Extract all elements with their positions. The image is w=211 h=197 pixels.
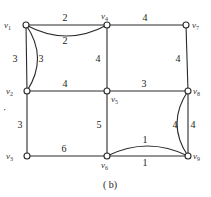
edge-weight-label: 2 — [63, 12, 68, 23]
vertex-label-v2: v2 — [6, 86, 13, 97]
edge-weight-label: 1 — [143, 157, 148, 168]
edge-weight-label: 4 — [143, 12, 148, 23]
edge-v1-v2 — [26, 25, 38, 91]
edge-weight-label: 4 — [173, 119, 178, 130]
vertex-v6 — [104, 153, 110, 159]
weighted-graph-diagram: 2243344433544611 v1v2v3v4v5v6v7v8v9 ( b)… — [0, 0, 211, 197]
vertex-label-v5: v5 — [111, 94, 118, 105]
edge-weight-label: 2 — [63, 35, 68, 46]
edge-weight-label: 3 — [13, 53, 18, 64]
vertex-v7 — [183, 22, 189, 28]
vertex-label-v4: v4 — [101, 11, 108, 22]
vertex-label-v3: v3 — [6, 151, 13, 162]
vertex-v1 — [23, 22, 29, 28]
edge-weight-label: 4 — [63, 78, 68, 89]
edge-weight-label: 4 — [191, 119, 196, 130]
edge-v7-v8 — [186, 25, 188, 91]
vertex-label-v1: v1 — [4, 20, 11, 31]
edge-weight-label: 3 — [18, 119, 23, 130]
edge-weight-label: 5 — [97, 119, 102, 130]
stray-mark: · — [3, 104, 6, 115]
vertex-v3 — [24, 153, 30, 159]
edge-weight-label: 3 — [142, 78, 147, 89]
vertex-v4 — [104, 22, 110, 28]
edge-weight-label: 1 — [143, 134, 148, 145]
edge-weight-label: 6 — [62, 143, 67, 154]
vertex-v5 — [104, 88, 110, 94]
vertex-label-v7: v7 — [192, 20, 199, 31]
edge-weight-label: 4 — [96, 53, 101, 64]
figure-caption: ( b) — [103, 179, 117, 191]
edge-weight-label: 4 — [176, 53, 181, 64]
vertex-label-v8: v8 — [193, 86, 200, 97]
edge-v1-v2 — [26, 25, 27, 91]
vertex-label-v9: v9 — [193, 151, 200, 162]
vertex-v8 — [185, 88, 191, 94]
vertex-v2 — [24, 88, 30, 94]
vertex-label-v6: v6 — [101, 160, 108, 171]
vertex-v9 — [185, 153, 191, 159]
edge-v8-v9 — [177, 91, 188, 156]
edge-weight-label: 3 — [39, 53, 44, 64]
edge-v6-v9 — [107, 146, 188, 156]
